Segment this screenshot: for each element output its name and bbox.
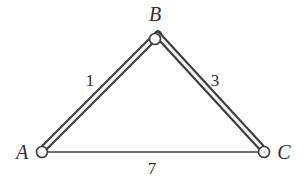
node-c — [259, 147, 270, 158]
node-label-b: B — [149, 3, 161, 25]
edge-weight-a-c: 7 — [148, 159, 157, 178]
edge-weight-b-c: 3 — [211, 71, 220, 90]
edge-weight-a-b: 1 — [86, 71, 95, 90]
graph-canvas: A B C 1 3 7 — [0, 0, 304, 178]
edge-a-b — [45, 34, 158, 147]
node-a — [37, 147, 48, 158]
edge-b-c — [158, 35, 261, 147]
node-label-a: A — [14, 141, 29, 163]
weighted-graph-figure: A B C 1 3 7 — [0, 0, 304, 178]
node-b — [150, 34, 161, 45]
node-label-c: C — [277, 141, 291, 163]
